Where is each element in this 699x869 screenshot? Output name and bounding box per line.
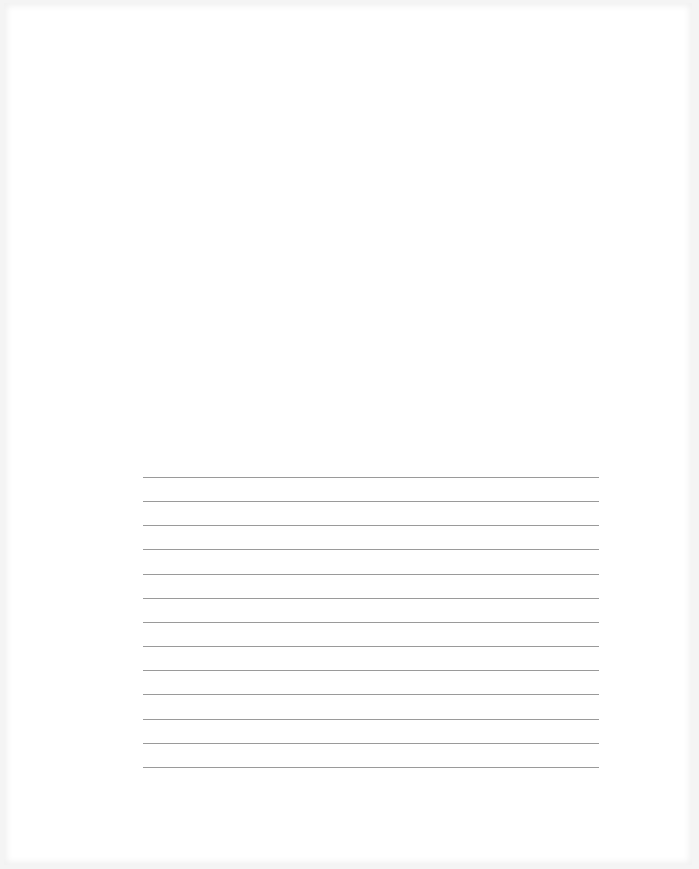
writing-line xyxy=(143,622,599,623)
writing-line xyxy=(143,525,599,526)
writing-line xyxy=(143,694,599,695)
writing-line xyxy=(143,646,599,647)
writing-line xyxy=(143,501,599,502)
writing-line xyxy=(143,549,599,550)
scanned-page xyxy=(4,3,692,865)
writing-line xyxy=(143,670,599,671)
writing-line xyxy=(143,477,599,478)
writing-line xyxy=(143,767,599,768)
writing-line xyxy=(143,743,599,744)
writing-line xyxy=(143,574,599,575)
writing-line xyxy=(143,719,599,720)
writing-line xyxy=(143,598,599,599)
